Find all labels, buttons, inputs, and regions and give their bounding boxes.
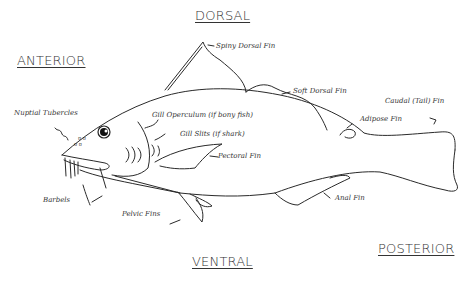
gill-operculum xyxy=(112,122,150,176)
label-spiny-dorsal-fin: Spiny Dorsal Fin xyxy=(216,42,275,50)
label-gill-operculum: Gill Operculum (if bony fish) xyxy=(152,111,253,119)
svg-text:ʊ ʊ: ʊ ʊ xyxy=(74,141,82,147)
mouth xyxy=(62,155,109,170)
fish-tail-edge xyxy=(80,150,458,196)
label-pectoral-fin: Pectoral Fin xyxy=(218,152,261,160)
label-anal-fin: Anal Fin xyxy=(335,194,365,202)
label-pelvic-fins: Pelvic Fins xyxy=(122,210,160,218)
label-gill-slits: Gill Slits (if shark) xyxy=(180,130,245,138)
label-barbels: Barbels xyxy=(43,196,70,204)
label-soft-dorsal-fin: Soft Dorsal Fin xyxy=(293,87,347,95)
pelvic-fins xyxy=(178,192,203,222)
label-adipose-fin: Adipose Fin xyxy=(360,115,402,123)
label-nuptial-tubercles: Nuptial Tubercles xyxy=(14,109,78,117)
adipose-fin xyxy=(340,129,355,138)
label-caudal-fin: Caudal (Tail) Fin xyxy=(385,97,444,105)
